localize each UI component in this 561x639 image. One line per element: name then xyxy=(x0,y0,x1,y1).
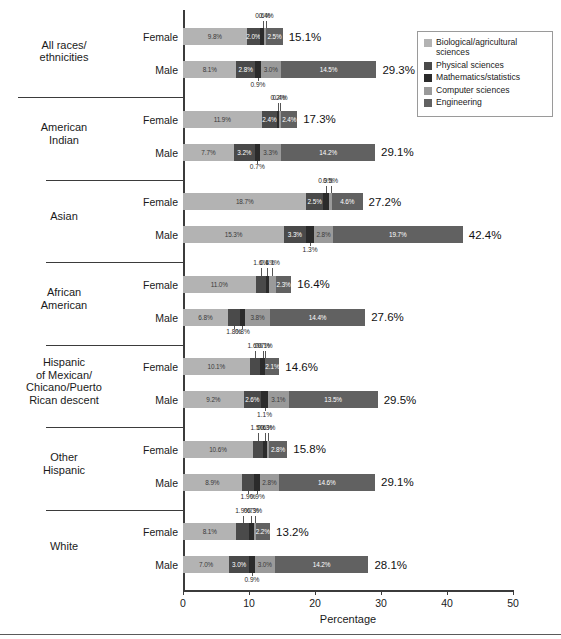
segment-value-label: 2.3% xyxy=(277,281,291,288)
segment-callout-label: 0.5% xyxy=(323,177,338,184)
legend: Biological/agricultural sciencesPhysical… xyxy=(417,31,553,117)
callout-leader-line xyxy=(261,268,262,276)
callout-leader-line xyxy=(255,516,256,524)
legend-swatch xyxy=(424,39,432,47)
legend-item: Mathematics/statistics xyxy=(424,72,546,82)
x-tick-label: 0 xyxy=(180,597,186,609)
bar-total-label: 29.1% xyxy=(381,476,414,488)
bar-female: 11.9%2.4%2.4%17.3% xyxy=(183,111,297,128)
segment-value-label: 14.4% xyxy=(309,314,327,321)
bar-female: 11.0%2.3%16.4% xyxy=(183,276,291,293)
segment-value-label: 2.2% xyxy=(256,528,270,535)
x-tick-label: 20 xyxy=(309,597,321,609)
segment-value-label: 2.8% xyxy=(316,231,330,238)
segment-value-label: 19.7% xyxy=(389,231,407,238)
callout-leader-line xyxy=(268,433,269,441)
segment-value-label: 8.9% xyxy=(205,479,219,486)
x-tick xyxy=(447,590,448,595)
segment-value-label: 13.5% xyxy=(324,396,342,403)
group-separator xyxy=(46,510,183,511)
bar-total-label: 27.6% xyxy=(371,311,404,323)
callout-leader-line xyxy=(258,433,259,441)
segment-value-label: 2.4% xyxy=(282,116,296,123)
series-label-male: Male xyxy=(118,394,178,406)
bar-segment: 3.3% xyxy=(284,226,306,243)
bar-male: 15.3%3.3%2.8%19.7%42.4% xyxy=(183,226,463,243)
bar-total-label: 29.3% xyxy=(382,64,415,76)
series-label-male: Male xyxy=(118,229,178,241)
segment-callout-label: 0.3% xyxy=(260,424,275,431)
segment-value-label: 3.1% xyxy=(271,396,285,403)
bar-total-label: 15.8% xyxy=(293,443,326,455)
bar-segment xyxy=(306,226,315,243)
segment-value-label: 4.6% xyxy=(340,198,354,205)
series-label-male: Male xyxy=(118,559,178,571)
callout-leader-line xyxy=(242,326,243,329)
bottom-rule xyxy=(0,634,561,635)
group-separator xyxy=(46,180,183,181)
segment-callout-label: 0.9% xyxy=(244,576,259,583)
bar-male: 7.7%3.2%3.3%14.2%29.1% xyxy=(183,144,375,161)
group-label-line: Chicano/Puerto xyxy=(4,381,124,394)
segment-callout-label: 0.1% xyxy=(258,342,273,349)
series-label-male: Male xyxy=(118,147,178,159)
series-label-male: Male xyxy=(118,64,178,76)
group-label: White xyxy=(4,540,124,553)
legend-label: Computer sciences xyxy=(436,85,510,95)
segment-value-label: 8.1% xyxy=(203,528,217,535)
segment-callout-label: 1.3% xyxy=(303,246,318,253)
group-label: OtherHispanic xyxy=(4,451,124,476)
group-label-line: American xyxy=(4,121,124,134)
segment-value-label: 14.2% xyxy=(319,149,337,156)
callout-leader-line xyxy=(265,351,266,359)
segment-value-label: 6.8% xyxy=(198,314,212,321)
x-tick xyxy=(249,590,250,595)
bar-segment xyxy=(250,358,261,375)
segment-value-label: 2.4% xyxy=(262,116,276,123)
bar-segment xyxy=(236,523,249,540)
bar-total-label: 29.5% xyxy=(384,394,417,406)
segment-callout-label: 0.9% xyxy=(250,81,265,88)
segment-callout-label: 0.7% xyxy=(250,163,265,170)
bar-segment: 3.0% xyxy=(261,61,281,78)
segment-value-label: 3.0% xyxy=(258,561,272,568)
bar-segment: 3.2% xyxy=(234,144,255,161)
x-tick-label: 10 xyxy=(243,597,255,609)
segment-value-label: 11.9% xyxy=(214,116,231,123)
segment-callout-label: 1.1% xyxy=(257,411,272,418)
segment-value-label: 2.8% xyxy=(271,446,285,453)
segment-value-label: 2.6% xyxy=(245,396,259,403)
bar-female: 18.7%2.5%4.6%27.2% xyxy=(183,193,363,210)
segment-value-label: 3.3% xyxy=(288,231,302,238)
bar-male: 8.9%2.8%14.6%29.1% xyxy=(183,474,375,491)
bar-segment: 8.1% xyxy=(183,61,236,78)
bar-segment: 4.6% xyxy=(332,193,362,210)
callout-leader-line xyxy=(243,516,244,524)
bar-segment: 2.8% xyxy=(260,474,278,491)
group-label-line: ethnicities xyxy=(4,51,124,64)
bar-segment xyxy=(269,276,276,293)
bar-male: 6.8%3.8%14.4%27.6% xyxy=(183,309,365,326)
x-tick xyxy=(315,590,316,595)
segment-value-label: 18.7% xyxy=(236,198,254,205)
group-label-line: White xyxy=(4,540,124,553)
callout-leader-line xyxy=(263,21,264,29)
bar-segment: 2.5% xyxy=(306,193,323,210)
chart-page: 01020304050 Percentage All races/ethnici… xyxy=(0,0,561,639)
bar-female: 10.1%2.1%14.6% xyxy=(183,358,279,375)
legend-item: Computer sciences xyxy=(424,85,546,95)
legend-label: Engineering xyxy=(436,97,482,107)
series-label-female: Female xyxy=(118,196,178,208)
group-label: Asian xyxy=(4,210,124,223)
bar-segment: 15.3% xyxy=(183,226,284,243)
legend-swatch xyxy=(424,62,432,70)
legend-swatch xyxy=(424,99,432,107)
segment-value-label: 14.2% xyxy=(313,561,331,568)
group-label: AfricanAmerican xyxy=(4,286,124,311)
bar-male: 8.1%2.8%3.0%14.5%29.3% xyxy=(183,61,376,78)
bar-female: 10.6%2.8%15.8% xyxy=(183,441,287,458)
group-label-line: African xyxy=(4,286,124,299)
bar-segment xyxy=(228,309,240,326)
segment-value-label: 3.3% xyxy=(263,149,277,156)
segment-callout-label: 0.8% xyxy=(235,328,250,335)
